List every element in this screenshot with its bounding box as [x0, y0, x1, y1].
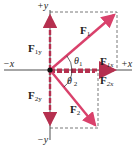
theta2-label: θ 2: [67, 75, 78, 88]
theta1-arc: [67, 56, 72, 70]
f2x-label: F2x: [100, 74, 114, 88]
origin-dot: [47, 67, 52, 72]
force-diagram: +y −y +x −x F1 F2 F1y F2y F1x F2x θ1 θ 2: [0, 0, 136, 147]
theta1-label: θ1: [74, 55, 83, 68]
pos-x-label: +x: [121, 58, 133, 69]
neg-y-label: −y: [37, 134, 49, 145]
f1x-label: F1x: [100, 55, 114, 69]
pos-y-label: +y: [37, 0, 49, 11]
neg-x-label: −x: [3, 58, 15, 69]
f2y-label: F2y: [28, 89, 42, 103]
f1y-label: F1y: [28, 42, 42, 56]
f2-vector-arrow: [50, 70, 95, 125]
f1-label: F1: [80, 24, 91, 38]
